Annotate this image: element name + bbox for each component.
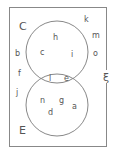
element-e: e: [64, 74, 69, 83]
element-f: f: [18, 69, 21, 78]
element-i: i: [71, 50, 73, 59]
venn-diagram: ξ C E h c i l e n g a d k m o b f j: [0, 0, 116, 159]
element-o: o: [93, 49, 98, 58]
universal-set-symbol: ξ: [103, 71, 109, 84]
element-h: h: [53, 33, 58, 42]
element-g: g: [59, 96, 64, 105]
element-a: a: [72, 102, 77, 111]
element-b: b: [15, 49, 20, 58]
element-k: k: [84, 15, 89, 24]
element-m: m: [92, 31, 100, 40]
element-d: d: [48, 108, 53, 117]
set-c-label: C: [19, 20, 27, 33]
element-l: l: [49, 74, 51, 83]
element-c: c: [40, 48, 44, 57]
set-e-label: E: [19, 124, 26, 137]
element-j: j: [15, 88, 18, 97]
element-n: n: [40, 96, 45, 105]
